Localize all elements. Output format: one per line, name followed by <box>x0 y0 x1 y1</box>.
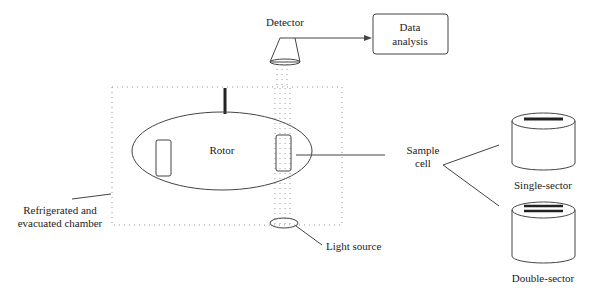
arrow-head-icon <box>364 35 372 41</box>
rotor-label: Rotor <box>209 144 234 156</box>
data-analysis-label-1: Data <box>400 21 421 33</box>
light-source-label: Light source <box>326 240 381 252</box>
double-sector-cell <box>512 202 575 263</box>
sample-cell-label-2: cell <box>415 157 431 169</box>
sample-cell-label-1: Sample <box>407 144 440 156</box>
data-analysis-label-2: analysis <box>392 35 427 47</box>
cell-type-branch <box>443 145 499 206</box>
single-sector-cell <box>512 113 575 170</box>
light-beam <box>275 64 290 225</box>
single-sector-label: Single-sector <box>514 179 572 191</box>
chamber-label-1: Refrigerated and <box>23 204 97 216</box>
detector-label: Detector <box>266 16 304 28</box>
ultracentrifuge-diagram: Detector Data analysis Rotor Sample cell… <box>0 0 592 288</box>
double-sector-label: Double-sector <box>512 272 575 284</box>
chamber-leader <box>72 194 111 199</box>
data-analysis-box <box>373 14 448 54</box>
counterbalance-cell <box>156 140 171 176</box>
chamber-label-2: evacuated chamber <box>18 217 103 229</box>
sample-cell-in-rotor <box>276 135 291 171</box>
light-source-icon <box>270 218 298 228</box>
refrigerated-chamber <box>112 87 342 225</box>
light-source-leader <box>296 226 322 245</box>
detector-icon <box>270 38 300 65</box>
